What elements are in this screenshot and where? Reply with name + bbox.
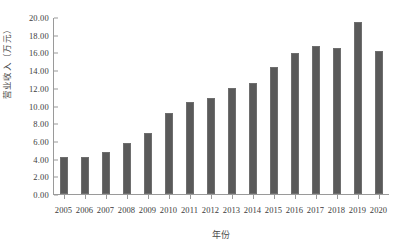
bar (354, 22, 362, 194)
bar (123, 143, 131, 194)
bar-cell (326, 18, 347, 194)
bar (270, 67, 278, 194)
x-tick-cell: 2011 (179, 195, 200, 225)
bar (144, 133, 152, 195)
x-tick-mark (211, 195, 212, 199)
x-tick-cell: 2008 (116, 195, 137, 225)
bar (165, 113, 173, 194)
x-tick-mark (295, 195, 296, 199)
x-tick-cell: 2012 (200, 195, 221, 225)
bar-cell (305, 18, 326, 194)
bar (312, 46, 320, 194)
bar (102, 152, 110, 194)
x-tick-cell: 2009 (137, 195, 158, 225)
x-tick-mark (148, 195, 149, 199)
bar (228, 88, 236, 194)
x-axis-title: 年份 (53, 228, 389, 241)
bar-cell (180, 18, 201, 194)
bar-cell (201, 18, 222, 194)
y-tick-label: 12.00 (29, 84, 49, 94)
x-tick-mark (232, 195, 233, 199)
bar-cell (242, 18, 263, 194)
bar-cell (222, 18, 243, 194)
x-tick-mark (253, 195, 254, 199)
bar-chart-figure: 营业收入（万元） 0.002.004.006.008.0010.0012.001… (0, 0, 399, 249)
x-tick-cell: 2007 (95, 195, 116, 225)
x-tick-cell: 2014 (242, 195, 263, 225)
x-tick-cell: 2010 (158, 195, 179, 225)
x-tick-mark (337, 195, 338, 199)
x-tick-label: 2010 (160, 205, 177, 215)
x-tick-label: 2011 (181, 205, 198, 215)
bar-cell (368, 18, 389, 194)
bar (375, 51, 383, 194)
x-tick-label: 2006 (76, 205, 93, 215)
x-tick-cell: 2015 (263, 195, 284, 225)
x-tick-mark (190, 195, 191, 199)
x-tick-label: 2012 (202, 205, 219, 215)
bar-cell (96, 18, 117, 194)
y-tick-label: 8.00 (33, 119, 49, 129)
x-tick-mark (316, 195, 317, 199)
y-tick-label: 6.00 (33, 137, 49, 147)
x-tick-mark (64, 195, 65, 199)
y-tick-label: 18.00 (29, 31, 49, 41)
bar-cell (347, 18, 368, 194)
bar-cell (263, 18, 284, 194)
y-tick-label: 14.00 (29, 66, 49, 76)
x-tick-label: 2013 (223, 205, 240, 215)
x-tick-cell: 2020 (368, 195, 389, 225)
x-tick-label: 2008 (118, 205, 135, 215)
y-tick-label: 4.00 (33, 155, 49, 165)
x-tick-mark (127, 195, 128, 199)
x-tick-cell: 2016 (284, 195, 305, 225)
bar (207, 98, 215, 194)
x-tick-mark (274, 195, 275, 199)
x-tick-label: 2017 (307, 205, 324, 215)
x-tick-label: 2014 (244, 205, 261, 215)
x-tick-label: 2005 (55, 205, 72, 215)
bar (291, 53, 299, 194)
bar (60, 157, 68, 194)
bar-cell (54, 18, 75, 194)
bar-cell (284, 18, 305, 194)
bar-cell (138, 18, 159, 194)
x-tick-cell: 2019 (347, 195, 368, 225)
y-tick-label: 20.00 (29, 13, 49, 23)
x-tick-label: 2009 (139, 205, 156, 215)
bar-cell (75, 18, 96, 194)
bar (186, 102, 194, 194)
x-tick-label: 2007 (97, 205, 114, 215)
x-tick-cell: 2017 (305, 195, 326, 225)
bar-cell (159, 18, 180, 194)
x-tick-cell: 2005 (53, 195, 74, 225)
y-tick-label: 10.00 (29, 102, 49, 112)
bar (333, 48, 341, 194)
bar (81, 157, 89, 194)
y-tick-label: 0.00 (33, 190, 49, 200)
x-tick-mark (169, 195, 170, 199)
y-tick-label: 2.00 (33, 172, 49, 182)
x-tick-mark (358, 195, 359, 199)
plot-area: 0.002.004.006.008.0010.0012.0014.0016.00… (53, 18, 389, 195)
x-tick-cell: 2006 (74, 195, 95, 225)
x-tick-mark (85, 195, 86, 199)
x-tick-cell: 2018 (326, 195, 347, 225)
bar-series (54, 18, 389, 194)
x-tick-label: 2018 (328, 205, 345, 215)
x-tick-label: 2019 (349, 205, 366, 215)
y-axis-title: 营业收入（万元） (0, 0, 14, 162)
y-tick-label: 16.00 (29, 48, 49, 58)
x-tick-cell: 2013 (221, 195, 242, 225)
bar (249, 83, 257, 195)
x-tick-mark (106, 195, 107, 199)
x-tick-label: 2020 (370, 205, 387, 215)
x-tick-label: 2015 (265, 205, 282, 215)
x-tick-label: 2016 (286, 205, 303, 215)
x-tick-mark (379, 195, 380, 199)
bar-cell (117, 18, 138, 194)
x-tick-labels: 2005200620072008200920102011201220132014… (53, 195, 389, 225)
